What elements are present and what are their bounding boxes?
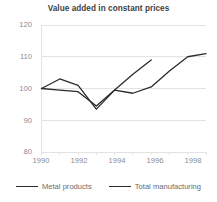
legend-label: Total manufacturing [135,182,201,191]
chart-container: Value added in constant prices 120 110 1… [0,0,217,202]
chart-legend: Metal products Total manufacturing [0,182,217,191]
legend-label: Metal products [42,182,92,191]
series-line-0 [42,60,152,109]
legend-line-icon [16,186,38,187]
gridlines [42,25,207,152]
plot-area [0,0,217,202]
series-lines [42,54,207,110]
legend-line-icon [109,186,131,187]
legend-item-metal-products: Metal products [16,182,92,191]
legend-item-total-manufacturing: Total manufacturing [109,182,201,191]
series-line-1 [42,54,207,106]
